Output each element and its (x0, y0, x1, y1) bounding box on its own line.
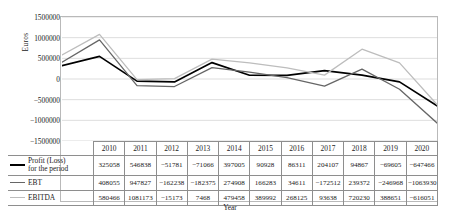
table-cell: −182375 (187, 175, 218, 190)
legend-swatch-ebt-icon (10, 182, 25, 183)
y-tick-label: 1500000 (2, 13, 60, 22)
table-col-header-2018: 2018 (344, 142, 375, 156)
table-cell: −246968 (375, 175, 406, 190)
table-cell: 274908 (219, 175, 250, 190)
table-cell: −162238 (156, 175, 187, 190)
legend-label-profit: Profit (Loss)for the period (28, 157, 68, 174)
table-cell: 408055 (94, 175, 125, 190)
table-col-header-2010: 2010 (94, 142, 125, 156)
table-col-header-2020: 2020 (406, 142, 437, 156)
x-axis-label: Year (0, 203, 460, 212)
table-cell: 90928 (250, 156, 281, 176)
table-row: Profit (Loss)for the period325058546838−… (8, 156, 438, 176)
table-col-header-2019: 2019 (375, 142, 406, 156)
table-header-row: 2010201120122013201420152016201720182019… (8, 142, 438, 156)
line-chart-svg (62, 17, 437, 141)
data-table: 2010201120122013201420152016201720182019… (8, 141, 438, 206)
y-tick-label: 500000 (2, 54, 60, 63)
table-col-header-2016: 2016 (281, 142, 312, 156)
legend-item-profit: Profit (Loss)for the period (8, 156, 94, 176)
table-cell: 546838 (125, 156, 156, 176)
table-col-header-2017: 2017 (312, 142, 343, 156)
legend-label-ebitda: EBITDA (28, 194, 55, 202)
y-tick-label: −1000000 (2, 116, 60, 125)
table-cell: 94867 (344, 156, 375, 176)
legend-label-ebt: EBT (28, 179, 42, 187)
table-cell: 86311 (281, 156, 312, 176)
table-cell: 166283 (250, 175, 281, 190)
table-cell: 325058 (94, 156, 125, 176)
table-cell: 34611 (281, 175, 312, 190)
y-tick-label: 0 (2, 75, 60, 84)
table-cell: 204107 (312, 156, 343, 176)
legend-item-ebt: EBT (8, 175, 94, 190)
table-body: Profit (Loss)for the period325058546838−… (8, 156, 438, 206)
table-col-header-2014: 2014 (219, 142, 250, 156)
table-cell: −71066 (187, 156, 218, 176)
legend-label-profit-line2: for the period (28, 165, 68, 173)
y-tick-label: −500000 (2, 95, 60, 104)
table-col-header-2015: 2015 (250, 142, 281, 156)
table-col-header-2013: 2013 (187, 142, 218, 156)
y-axis-ticks: 150000010000005000000−500000−1000000−150… (0, 16, 60, 141)
table-cell: −51781 (156, 156, 187, 176)
table-cell: −172512 (312, 175, 343, 190)
table-col-header-2011: 2011 (125, 142, 156, 156)
legend-swatch-profit-icon (10, 164, 25, 166)
table-cell: −69605 (375, 156, 406, 176)
y-tick-label: 1000000 (2, 33, 60, 42)
table-corner-cell (8, 142, 94, 156)
legend-swatch-ebitda-icon (10, 197, 25, 198)
series-line-profit (62, 56, 437, 105)
chart-figure: Euros 150000010000005000000−500000−10000… (0, 0, 460, 224)
table-cell: 397005 (219, 156, 250, 176)
table-col-header-2012: 2012 (156, 142, 187, 156)
table-cell: 239372 (344, 175, 375, 190)
table-cell: −1063930 (406, 175, 437, 190)
table-cell: −647466 (406, 156, 437, 176)
plot-area (62, 17, 437, 141)
table-cell: 947827 (125, 175, 156, 190)
series-line-ebt (62, 40, 437, 123)
table-row: EBT408055947827−162238−18237527490816628… (8, 175, 438, 190)
